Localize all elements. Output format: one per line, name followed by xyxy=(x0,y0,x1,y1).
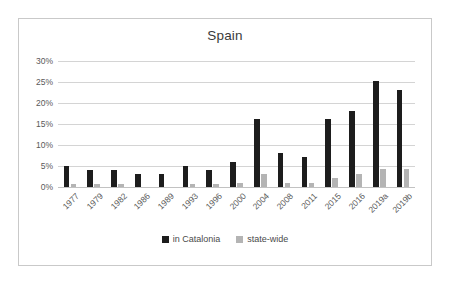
x-axis-tick-label: 2019b xyxy=(386,191,414,219)
x-axis-tick-label: 1977 xyxy=(53,191,81,219)
x-axis-tick-label: 1996 xyxy=(195,191,223,219)
bar-group xyxy=(87,61,100,187)
bar xyxy=(64,166,70,187)
gray-square-icon xyxy=(236,236,243,243)
bar xyxy=(159,174,165,187)
x-axis-ticks: 1977197919821986198919931996200020042008… xyxy=(58,187,415,233)
bar-group xyxy=(254,61,267,187)
bar-group xyxy=(64,61,77,187)
x-axis-tick-label: 2011 xyxy=(291,191,319,219)
y-axis-tick-label: 25% xyxy=(19,77,53,87)
bar xyxy=(254,119,260,187)
bar xyxy=(206,170,212,187)
chart-legend: in Catalonia state-wide xyxy=(19,234,431,244)
bar xyxy=(111,170,117,187)
bar xyxy=(230,162,236,187)
bar-group xyxy=(397,61,410,187)
bar-group xyxy=(183,61,196,187)
legend-label-in-catalonia: in Catalonia xyxy=(173,234,221,244)
bar xyxy=(87,170,93,187)
bar-group xyxy=(302,61,315,187)
y-axis-tick-label: 30% xyxy=(19,56,53,66)
bar xyxy=(349,111,355,187)
bar xyxy=(397,90,403,187)
bar-group xyxy=(373,61,386,187)
bar xyxy=(135,174,141,187)
chart-container: Spain 0%5%10%15%20%25%30% 19771979198219… xyxy=(18,18,432,266)
x-axis-tick-label: 2015 xyxy=(314,191,342,219)
x-axis-tick-label: 1986 xyxy=(124,191,152,219)
bars-layer xyxy=(58,61,415,187)
plot-wrapper: 0%5%10%15%20%25%30% 19771979198219861989… xyxy=(19,19,431,265)
y-axis-tick-label: 0% xyxy=(19,182,53,192)
x-axis-tick-label: 1982 xyxy=(100,191,128,219)
bar-group xyxy=(111,61,124,187)
y-axis-tick-label: 15% xyxy=(19,119,53,129)
x-axis-tick-label: 2019a xyxy=(362,191,390,219)
dark-square-icon xyxy=(162,236,169,243)
bar xyxy=(325,119,331,187)
bar-group xyxy=(349,61,362,187)
bar xyxy=(261,174,267,187)
plot-area: 0%5%10%15%20%25%30% xyxy=(58,61,415,187)
bar-group xyxy=(206,61,219,187)
y-axis-tick-label: 10% xyxy=(19,140,53,150)
x-axis-tick-label: 1989 xyxy=(148,191,176,219)
y-axis-tick-label: 5% xyxy=(19,161,53,171)
x-axis-tick-label: 1979 xyxy=(76,191,104,219)
x-axis-tick-label: 2000 xyxy=(219,191,247,219)
x-axis-tick-label: 2016 xyxy=(338,191,366,219)
y-axis-tick-label: 20% xyxy=(19,98,53,108)
bar xyxy=(278,153,284,187)
bar-group xyxy=(230,61,243,187)
bar xyxy=(332,178,338,187)
bar xyxy=(183,166,189,187)
bar xyxy=(356,174,362,187)
x-axis-tick-label: 2004 xyxy=(243,191,271,219)
bar-group xyxy=(159,61,172,187)
legend-item-state-wide: state-wide xyxy=(236,234,288,244)
x-axis-tick-label: 1993 xyxy=(172,191,200,219)
bar-group xyxy=(278,61,291,187)
bar xyxy=(404,169,410,187)
bar-group xyxy=(135,61,148,187)
bar-group xyxy=(325,61,338,187)
legend-label-state-wide: state-wide xyxy=(247,234,288,244)
bar xyxy=(302,157,308,187)
bar xyxy=(373,81,379,187)
legend-item-in-catalonia: in Catalonia xyxy=(162,234,221,244)
x-axis-tick-label: 2008 xyxy=(267,191,295,219)
bar xyxy=(380,169,386,187)
